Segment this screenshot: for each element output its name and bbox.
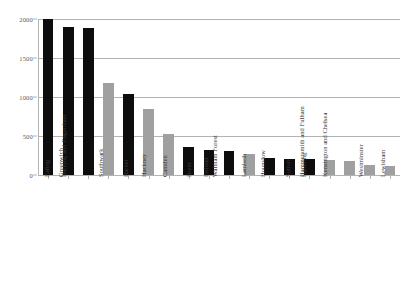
x-axis-tick-label: Lambeth [241,154,248,177]
bar[interactable] [344,161,355,175]
y-axis-tick-label: 500 [23,133,33,140]
y-axis-tick-label: 1000 [19,94,33,101]
x-axis-tick-label: Sutton [284,160,291,177]
x-axis: EalingGreenwichBarking and DagenhamSouth… [38,177,400,281]
x-axis-tick-label: Camden [161,155,168,177]
x-axis-label-slot: Hammersmith and Fulham [320,177,340,281]
x-axis-label-slot: Westminster [360,177,380,281]
x-axis-tick-label: Brent [185,162,192,177]
x-axis-label-slot: Enfield [199,177,219,281]
x-axis-label-slot: Ealing [38,177,58,281]
x-axis-tick-mark [309,176,310,179]
bar-slot [38,19,58,175]
x-axis-label-slot: Greenwich [58,177,78,281]
x-axis-label-slot: Havering [299,177,319,281]
y-axis-tick-mark [33,19,37,20]
y-axis-tick-label: 1500 [19,55,33,62]
bar[interactable] [364,165,375,175]
x-axis-label-slot: Hounslow [259,177,279,281]
x-axis-tick-mark [390,176,391,179]
x-axis-tick-mark [350,176,351,179]
bar[interactable] [83,28,94,175]
x-axis-label-slot: Waltham Forest [219,177,239,281]
x-axis-tick-label: Barking and Dagenham [60,114,67,177]
x-axis-tick-label: Waltham Forest [211,135,218,177]
y-axis-tick-mark [33,136,37,137]
x-axis-tick-mark [88,176,89,179]
bar-slot [159,19,179,175]
gridline [38,175,400,176]
x-axis-tick-mark [169,176,170,179]
x-axis-tick-mark [149,176,150,179]
y-axis-tick-mark [33,175,37,176]
x-axis-tick-label: Southwark [97,148,104,177]
bar-slot [239,19,259,175]
bar-slot [179,19,199,175]
x-axis-tick-label: Hounslow [259,150,266,177]
x-axis-label-slot: Southwark [98,177,118,281]
x-axis-tick-mark [330,176,331,179]
x-axis-tick-mark [269,176,270,179]
x-axis-tick-mark [108,176,109,179]
x-axis-label-slot: Lewisham [380,177,400,281]
bar-slot [279,19,299,175]
bar-slot [78,19,98,175]
x-axis-tick-mark [68,176,69,179]
x-axis-tick-mark [370,176,371,179]
bar-slot [219,19,239,175]
x-axis-label-slot: Barnet [118,177,138,281]
x-axis-tick-label: Enfield [202,157,209,177]
y-axis: 0500100015002000 [0,19,33,175]
x-axis-label-slot: Camden [159,177,179,281]
bar-chart: 0500100015002000 EalingGreenwichBarking … [0,0,416,283]
x-axis-label-slot: Barking and Dagenham [78,177,98,281]
bar[interactable] [224,151,235,175]
x-axis-tick-mark [229,176,230,179]
x-axis-tick-label: Westminster [357,144,364,177]
x-axis-tick-mark [249,176,250,179]
x-axis-tick-label: Kensington and Chelsea [321,113,328,177]
x-axis-label-slot: Lambeth [239,177,259,281]
x-axis-tick-label: Hackney [140,154,147,177]
plot-area [38,19,400,175]
x-axis-label-slot: Hackney [139,177,159,281]
x-axis-label-slot: Brent [179,177,199,281]
y-axis-tick-label: 2000 [19,16,33,23]
x-axis-tick-label: Lewisham [379,150,386,177]
x-axis-label-slot: Kensington and Chelsea [340,177,360,281]
bar[interactable] [103,83,114,175]
bar-slot [139,19,159,175]
x-axis-tick-label: Barnet [123,159,130,177]
x-axis-label-slot: Sutton [279,177,299,281]
y-axis-tick-mark [33,58,37,59]
y-axis-tick-mark [33,97,37,98]
bar[interactable] [43,19,54,175]
x-axis-tick-label: Hammersmith and Fulham [297,106,304,177]
x-axis-tick-label: Ealing [43,160,50,177]
bar-slot [118,19,138,175]
